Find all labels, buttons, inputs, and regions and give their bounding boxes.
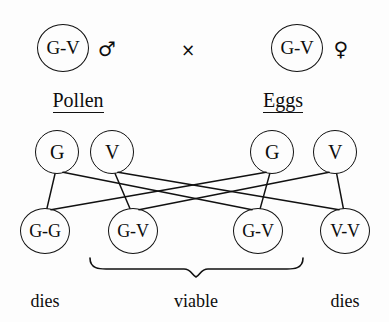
gamete-circle-egg-g: G: [250, 130, 294, 174]
gamete-label: G: [50, 141, 64, 164]
fusion-line: [118, 172, 339, 209]
gamete-label: V: [328, 141, 342, 164]
parent-male-genotype-circle: G-V: [37, 24, 89, 72]
offspring-circle-gg: G-G: [20, 208, 70, 254]
gamete-circle-egg-v: V: [313, 130, 357, 174]
female-sex-icon: ♀: [334, 39, 349, 59]
fate-label-dies-left: dies: [31, 292, 60, 312]
offspring-genotype-label: G-G: [29, 221, 60, 242]
eggs-group-label: Eggs: [263, 89, 303, 113]
genetic-cross-diagram: G-V ♂ × G-V ♀ Pollen Eggs G V G V G-G G-…: [0, 0, 389, 322]
offspring-circle-vv: V-V: [320, 208, 370, 254]
male-sex-icon: ♂: [98, 39, 116, 59]
gamete-circle-pollen-v: V: [90, 130, 134, 174]
viable-group-brace: [90, 258, 303, 277]
parent-female-genotype-label: G-V: [280, 37, 313, 59]
offspring-genotype-label: G-V: [117, 221, 148, 242]
offspring-circle-gv-left: G-V: [108, 208, 158, 254]
fusion-line: [139, 172, 329, 209]
fate-label-viable: viable: [174, 292, 218, 312]
pollen-group-label: Pollen: [53, 89, 104, 113]
fusion-line: [63, 172, 252, 209]
offspring-genotype-label: V-V: [330, 221, 360, 242]
fusion-line: [260, 174, 269, 208]
fusion-line: [47, 174, 55, 208]
fusion-line: [337, 174, 344, 208]
parent-female-genotype-circle: G-V: [271, 24, 323, 72]
fate-label-dies-right: dies: [331, 292, 360, 312]
parent-male-genotype-label: G-V: [46, 37, 79, 59]
offspring-genotype-label: G-V: [242, 221, 273, 242]
fusion-line: [115, 174, 130, 209]
gamete-label: V: [105, 141, 119, 164]
fusion-line: [51, 172, 266, 209]
gamete-circle-pollen-g: G: [35, 130, 79, 174]
gamete-label: G: [265, 141, 279, 164]
cross-multiply-icon: ×: [181, 42, 195, 59]
offspring-circle-gv-right: G-V: [233, 208, 283, 254]
